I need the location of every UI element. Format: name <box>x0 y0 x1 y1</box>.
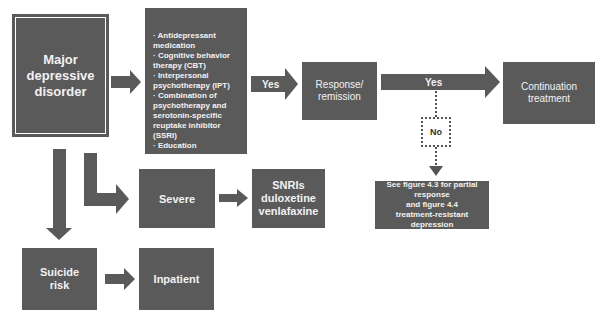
node-text: Major <box>27 52 95 68</box>
node-response-remission: Response/ remission <box>302 62 377 120</box>
node-text: Inpatient <box>154 273 200 285</box>
node-inpatient: Inpatient <box>139 248 214 310</box>
arrow-no-down <box>429 166 443 176</box>
node-text: depression <box>375 220 489 230</box>
node-text: venlafaxine <box>259 205 319 218</box>
node-snris: SNRIs duloxetine venlafaxine <box>252 169 325 228</box>
arrow-mdd-to-treatment <box>111 70 141 94</box>
arrow-severe-to-snri <box>219 189 248 207</box>
node-treatment-options: Antidepressant medication Cognitive beha… <box>145 8 247 154</box>
edge-label-yes-1: Yes <box>262 79 279 90</box>
node-see-figures: See figure 4.3 for partial response and … <box>375 181 489 229</box>
list-item: Interpersonal psychotherapy (IPT) <box>153 71 243 91</box>
node-suicide-risk: Suicide risk <box>22 248 97 310</box>
list-item: Combination of psychotherapy and seroton… <box>153 91 243 141</box>
edge-label-yes-2: Yes <box>425 77 442 88</box>
list-item: Cognitive behavior therapy (CBT) <box>153 51 243 71</box>
node-text: treatment <box>521 93 577 105</box>
node-text: remission <box>316 91 364 103</box>
node-text: and figure 4.4 <box>375 200 489 210</box>
node-text: treatment-resistant <box>375 210 489 220</box>
arrow-suicide-to-inpatient <box>105 268 135 290</box>
node-text: Response/ <box>316 79 364 91</box>
node-text: duloxetine <box>259 192 319 205</box>
node-severe: Severe <box>139 169 215 228</box>
treatment-list: Antidepressant medication Cognitive beha… <box>153 31 243 151</box>
node-text: Severe <box>159 193 195 205</box>
node-text: Continuation <box>521 81 577 93</box>
list-item: Education <box>153 141 243 151</box>
node-continuation-treatment: Continuation treatment <box>503 62 595 124</box>
node-text: See figure 4.3 for partial response <box>375 180 489 200</box>
arrow-mdd-to-severe <box>84 153 129 214</box>
arrow-mdd-to-suicide <box>46 149 72 240</box>
edge-label-no: No <box>421 117 451 147</box>
list-item: Antidepressant medication <box>153 31 243 51</box>
node-text: risk <box>40 279 79 292</box>
node-text: Suicide <box>40 266 79 279</box>
node-major-depressive-disorder: Major depressive disorder <box>12 14 109 137</box>
node-text: SNRIs <box>259 179 319 192</box>
node-text: depressive <box>27 68 95 84</box>
node-text: disorder <box>27 84 95 100</box>
